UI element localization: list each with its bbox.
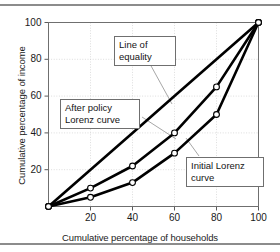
x-axis-title: Cumulative percentage of households [0, 232, 280, 243]
data-point-marker [46, 204, 52, 210]
data-point-marker [88, 185, 94, 191]
data-point-marker [214, 84, 220, 90]
data-point-marker [214, 112, 220, 118]
y-axis-title: Cumulative percentage of income [16, 26, 27, 206]
x-tick-label: 100 [244, 212, 274, 223]
annotation-leader-lines [142, 64, 199, 156]
x-tick-label: 20 [76, 212, 106, 223]
data-point-marker [172, 130, 178, 136]
data-point-marker [88, 194, 94, 200]
lorenz-curve-figure: 20406080100 20406080100 Cumulative perce… [0, 0, 280, 252]
callout-initial-lorenz-curve: Initial Lorenz curve [186, 157, 264, 187]
x-tick-label: 80 [202, 212, 232, 223]
callout-after-policy-lorenz-curve: After policy Lorenz curve [60, 99, 140, 129]
data-point-marker [130, 180, 136, 186]
callout-line-of-equality: Line of equality [114, 36, 176, 66]
data-point-marker [130, 163, 136, 169]
data-point-marker [256, 20, 262, 26]
x-tick-label: 60 [160, 212, 190, 223]
x-tick-label: 40 [118, 212, 148, 223]
data-point-marker [172, 150, 178, 156]
